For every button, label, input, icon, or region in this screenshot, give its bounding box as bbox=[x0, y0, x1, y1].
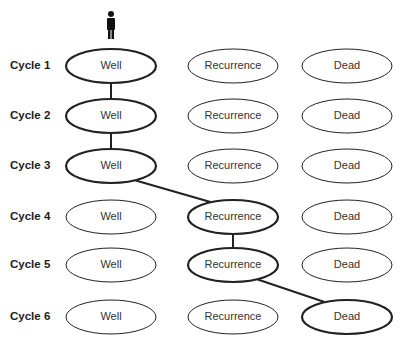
state-label: Well bbox=[66, 159, 156, 171]
person-icon bbox=[107, 11, 115, 39]
state-label: Dead bbox=[302, 59, 392, 71]
state-label: Dead bbox=[302, 109, 392, 121]
state-label: Dead bbox=[302, 258, 392, 270]
state-label: Recurrence bbox=[188, 258, 278, 270]
state-label: Well bbox=[66, 310, 156, 322]
state-label: Dead bbox=[302, 159, 392, 171]
state-label: Well bbox=[66, 59, 156, 71]
state-label: Dead bbox=[302, 310, 392, 322]
cycle-label: Cycle 2 bbox=[10, 109, 62, 121]
state-nodes bbox=[66, 49, 392, 334]
state-label: Dead bbox=[302, 210, 392, 222]
markov-cycle-diagram: Cycle 1WellRecurrenceDeadCycle 2WellRecu… bbox=[0, 0, 407, 344]
transition-line bbox=[136, 180, 211, 202]
state-label: Recurrence bbox=[188, 109, 278, 121]
transition-line bbox=[258, 279, 325, 302]
state-label: Well bbox=[66, 210, 156, 222]
cycle-label: Cycle 1 bbox=[10, 59, 62, 71]
state-label: Recurrence bbox=[188, 210, 278, 222]
state-label: Recurrence bbox=[188, 59, 278, 71]
cycle-label: Cycle 4 bbox=[10, 210, 62, 222]
state-label: Recurrence bbox=[188, 310, 278, 322]
cycle-label: Cycle 5 bbox=[10, 258, 62, 270]
cycle-label: Cycle 3 bbox=[10, 159, 62, 171]
diagram-canvas bbox=[0, 0, 407, 344]
cycle-label: Cycle 6 bbox=[10, 310, 62, 322]
state-label: Well bbox=[66, 258, 156, 270]
state-label: Well bbox=[66, 109, 156, 121]
state-label: Recurrence bbox=[188, 159, 278, 171]
